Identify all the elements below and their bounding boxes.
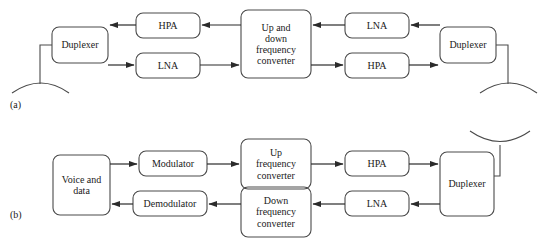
antenna-right-dish — [480, 83, 537, 93]
block-duplexer-right — [440, 27, 496, 63]
block-hpa-b — [345, 151, 409, 176]
block-duplexer-b — [440, 152, 494, 216]
antenna-b-stem — [494, 145, 500, 176]
block-duplexer-left — [52, 27, 108, 63]
block-lna-b — [345, 191, 409, 216]
panel-caption-a: (a) — [10, 99, 21, 110]
block-lna-left — [136, 53, 200, 78]
diagram-canvas — [0, 0, 542, 245]
antenna-right-stem — [496, 45, 508, 84]
block-diagram-figure: Duplexer HPA LNA Up and down frequency c… — [0, 0, 542, 245]
block-updown-converter — [241, 10, 311, 78]
block-hpa-left — [136, 13, 200, 38]
antenna-left-dish — [12, 83, 69, 93]
block-demodulator — [133, 191, 207, 216]
antenna-left-stem — [40, 45, 52, 84]
block-up-converter — [241, 139, 311, 189]
antenna-b-dish — [470, 131, 530, 142]
block-lna-right — [345, 13, 409, 38]
block-down-converter — [241, 187, 311, 237]
block-hpa-right — [345, 53, 409, 78]
block-voice-and-data — [53, 155, 110, 215]
block-modulator — [139, 151, 207, 176]
panel-caption-b: (b) — [10, 209, 22, 220]
